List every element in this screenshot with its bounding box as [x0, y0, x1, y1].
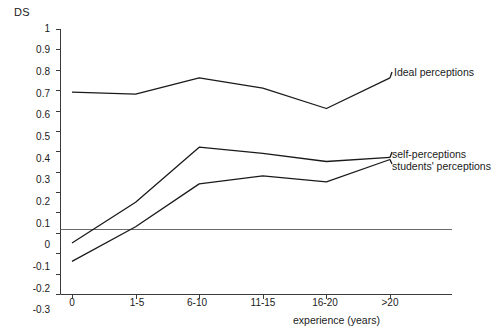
series-line-self-perceptions — [72, 147, 390, 243]
y-axis-ticks — [56, 30, 61, 295]
data-series-group — [72, 78, 390, 262]
leader-segment-students-perceptions — [390, 160, 392, 165]
line-chart: DS 1 0.9 0.8 0.7 0.6 0.5 0.4 0.3 0.2 0.1… — [0, 0, 500, 335]
leader-segment-self-perceptions — [390, 152, 392, 157]
series-line-students-perceptions — [72, 160, 390, 262]
leader-segment-ideal-perceptions — [390, 72, 392, 78]
series-line-ideal-perceptions — [72, 78, 390, 109]
series-leader-lines — [390, 72, 392, 164]
plot-area — [0, 0, 500, 335]
axis-group — [56, 29, 452, 299]
x-axis-ticks — [73, 295, 391, 300]
